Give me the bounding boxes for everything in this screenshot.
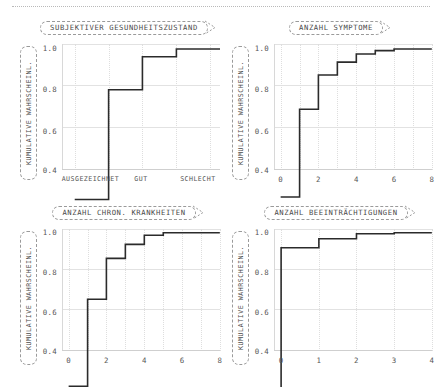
- x-tick-label: 0: [279, 356, 284, 365]
- x-tick-label: 8: [217, 356, 222, 365]
- y-tick-label: 1.0: [43, 44, 57, 53]
- x-tick-label: 6: [392, 175, 397, 184]
- x-tick-label: 2: [316, 175, 321, 184]
- y-axis-label-badge: KUMULATIVE WAHRSCHEINL.: [20, 231, 37, 365]
- chevron-right-icon: [380, 21, 391, 33]
- chart-title-wrap: ANZAHL SYMPTOME: [230, 18, 442, 38]
- y-tick-label: 0.6: [43, 307, 57, 316]
- chart-panel-anzahl-symptome: ANZAHL SYMPTOME KUMULATIVE WAHRSCHEINL.: [230, 18, 442, 196]
- x-tick-label: 4: [142, 356, 147, 365]
- plot-area: 1.0 0.8 0.6 0.4 0 2 4 6 8: [62, 229, 220, 351]
- x-tick-label: 0: [66, 356, 71, 365]
- y-tick-label: 0.4: [43, 347, 57, 356]
- y-axis-label-text: KUMULATIVE WAHRSCHEINL.: [25, 246, 33, 350]
- chart-title-text: ANZAHL SYMPTOME: [299, 23, 373, 32]
- chart-title-text: SUBJEKTIVER GESUNDHEITSZUSTAND: [50, 23, 198, 32]
- ecdf-step-curve: [274, 229, 432, 387]
- y-tick-label: 0.6: [43, 126, 57, 135]
- chart-title-badge: SUBJEKTIVER GESUNDHEITSZUSTAND: [40, 21, 208, 35]
- x-tick-label: GUT: [134, 175, 147, 183]
- chart-title-text: ANZAHL CHRON. KRANKHEITEN: [62, 208, 185, 217]
- y-tick-label: 0.8: [43, 267, 57, 276]
- y-tick-label: 0.4: [255, 166, 269, 175]
- chevron-right-icon: [205, 21, 216, 33]
- chart-title-wrap: ANZAHL CHRON. KRANKHEITEN: [18, 203, 230, 223]
- plot-frame: 1.0 0.8 0.6 0.4 0 2 4 6 8: [274, 44, 432, 170]
- plot-area: 1.0 0.8 0.6 0.4 0 2 4 6 8: [274, 44, 432, 170]
- y-tick-label: 0.6: [255, 307, 269, 316]
- y-tick-label: 1.0: [43, 227, 57, 236]
- chart-panel-anzahl-chron-krankheiten: ANZAHL CHRON. KRANKHEITEN KUMULATIVE WAH…: [18, 203, 230, 378]
- x-tick-label: 6: [180, 356, 185, 365]
- plot-frame: 1.0 0.8 0.6 0.4 0 1 2 3 4: [274, 229, 432, 351]
- chevron-right-icon: [193, 206, 204, 218]
- y-tick-label: 0.8: [255, 85, 269, 94]
- y-tick-label: 1.0: [255, 227, 269, 236]
- y-tick-label: 0.4: [43, 166, 57, 175]
- plot-frame: 1.0 0.8 0.6 0.4 0 2 4 6 8: [62, 229, 220, 351]
- y-axis-label-badge: KUMULATIVE WAHRSCHEINL.: [232, 46, 249, 180]
- x-tick-label: AUSGEZEICHNET: [62, 175, 119, 183]
- y-tick-label: 0.8: [43, 85, 57, 94]
- x-tick-label: 4: [354, 175, 359, 184]
- x-tick-label: 2: [354, 356, 359, 365]
- y-tick-label: 1.0: [255, 44, 269, 53]
- y-tick-label: 0.8: [255, 267, 269, 276]
- x-tick-label: 2: [104, 356, 109, 365]
- plot-area: 1.0 0.8 0.6 0.4 AUSGEZEICHNET GUT SCHLEC…: [62, 44, 220, 170]
- x-tick-label: 3: [392, 356, 397, 365]
- chart-title-wrap: ANZAHL BEEINTRÄCHTIGUNGEN: [230, 203, 442, 223]
- plot-frame: 1.0 0.8 0.6 0.4 AUSGEZEICHNET GUT SCHLEC…: [62, 44, 220, 170]
- plot-area: 1.0 0.8 0.6 0.4 0 1 2 3 4: [274, 229, 432, 351]
- x-tick-label: 8: [429, 175, 434, 184]
- x-tick-label: 1: [316, 356, 321, 365]
- chart-panel-subjektiver-gesundheitszustand: SUBJEKTIVER GESUNDHEITSZUSTAND KUMULATIV…: [18, 18, 230, 196]
- x-tick-label: 0: [278, 175, 283, 184]
- y-tick-label: 0.6: [255, 126, 269, 135]
- chart-title-wrap: SUBJEKTIVER GESUNDHEITSZUSTAND: [18, 18, 230, 38]
- chevron-right-icon: [405, 206, 416, 218]
- y-tick-label: 0.4: [255, 347, 269, 356]
- y-axis-label-text: KUMULATIVE WAHRSCHEINL.: [25, 61, 33, 165]
- y-axis-label-badge: KUMULATIVE WAHRSCHEINL.: [232, 231, 249, 365]
- chart-title-badge: ANZAHL SYMPTOME: [289, 21, 383, 35]
- y-axis-label-text: KUMULATIVE WAHRSCHEINL.: [237, 61, 245, 165]
- chart-title-badge: ANZAHL BEEINTRÄCHTIGUNGEN: [264, 206, 407, 220]
- y-axis-label-badge: KUMULATIVE WAHRSCHEINL.: [20, 46, 37, 180]
- x-tick-label: 4: [429, 356, 434, 365]
- chart-panel-anzahl-beeintraechtigungen: ANZAHL BEEINTRÄCHTIGUNGEN KUMULATIVE WAH…: [230, 203, 442, 378]
- chart-title-text: ANZAHL BEEINTRÄCHTIGUNGEN: [274, 208, 397, 217]
- top-dotted-separator: [12, 6, 430, 7]
- chart-title-badge: ANZAHL CHRON. KRANKHEITEN: [52, 206, 195, 220]
- y-axis-label-text: KUMULATIVE WAHRSCHEINL.: [237, 246, 245, 350]
- x-tick-label: SCHLECHT: [180, 175, 215, 183]
